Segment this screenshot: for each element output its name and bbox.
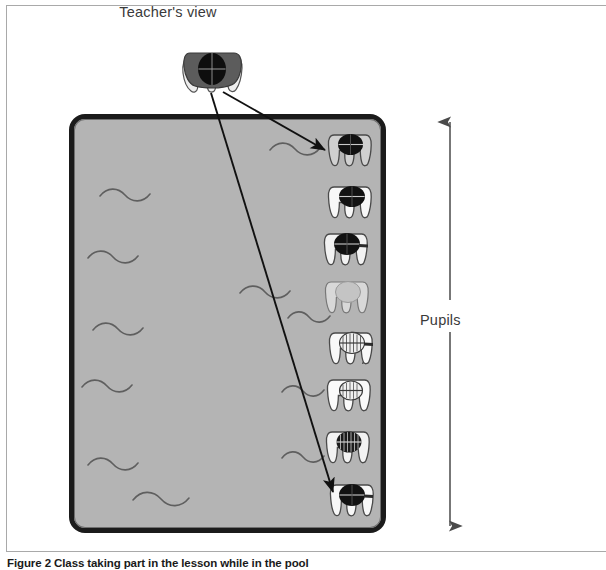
figure-title: Teacher's view bbox=[68, 4, 268, 20]
pool-water bbox=[74, 119, 381, 528]
figure-caption: Figure 2 Class taking part in the lesson… bbox=[6, 556, 606, 570]
pupils-label: Pupils bbox=[420, 312, 461, 328]
caption-figure-number: Figure 2 bbox=[7, 557, 51, 569]
caption-figure-text: Class taking part in the lesson while in… bbox=[54, 557, 309, 569]
figure-caption-area: Figure 2 Class taking part in the lesson… bbox=[6, 556, 606, 570]
swimming-pool bbox=[69, 114, 386, 533]
